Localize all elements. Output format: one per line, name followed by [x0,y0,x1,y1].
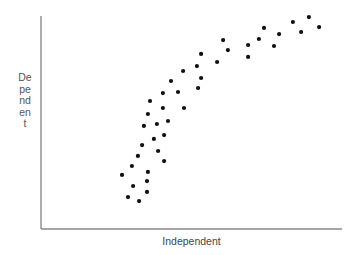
data-point [126,195,130,199]
data-point [140,143,144,147]
data-point [146,112,150,116]
data-point [152,137,156,141]
data-point [299,30,303,34]
data-point [176,90,180,94]
data-point [277,32,281,36]
data-point [136,154,140,158]
data-point [161,91,165,95]
data-point [257,37,261,41]
data-point [120,173,124,177]
data-point [137,199,141,203]
data-point [291,20,295,24]
data-point [246,55,250,59]
data-point [146,170,150,174]
data-point [142,124,146,128]
data-point [221,38,225,42]
data-point [181,69,185,73]
data-point [145,190,149,194]
data-points [120,15,321,203]
data-point [226,48,230,52]
data-point [148,99,152,103]
y-axis-label: Dependent [18,72,32,130]
data-point [131,184,135,188]
data-point [145,179,149,183]
data-point [162,133,166,137]
data-point [307,15,311,19]
scatter-plot [0,0,357,255]
data-point [262,26,266,30]
data-point [155,122,159,126]
data-point [169,79,173,83]
data-point [199,52,203,56]
data-point [130,164,134,168]
data-point [215,60,219,64]
data-point [162,159,166,163]
data-point [166,119,170,123]
data-point [199,76,203,80]
data-point [156,149,160,153]
data-point [246,43,250,47]
data-point [196,86,200,90]
data-point [195,64,199,68]
data-point [272,44,276,48]
data-point [317,25,321,29]
data-point [182,106,186,110]
data-point [161,106,165,110]
x-axis-label: Independent [41,235,342,247]
